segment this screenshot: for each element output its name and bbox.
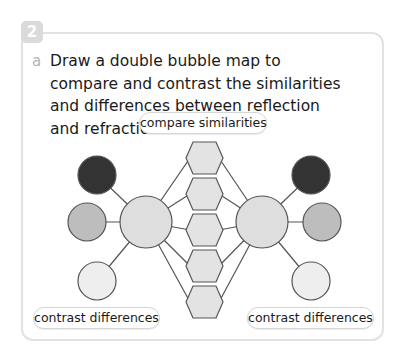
similarity-hexagon (186, 286, 223, 318)
left-center-bubble (120, 196, 172, 248)
right-difference-bubble-mid (303, 203, 341, 241)
similarity-hexagons (186, 142, 223, 318)
similarity-hexagon (186, 178, 223, 210)
compare-similarities-label: compare similarities (139, 112, 267, 134)
similarity-hexagon (186, 142, 223, 174)
contrast-differences-label-right: contrast differences (247, 307, 374, 329)
similarity-hexagon (186, 250, 223, 282)
contrast-differences-label-left: contrast differences (33, 307, 160, 329)
right-difference-bubble-dark (292, 156, 330, 194)
left-difference-bubble-mid (68, 203, 106, 241)
right-center-bubble (236, 196, 288, 248)
double-bubble-map (0, 0, 401, 350)
left-difference-bubble-dark (78, 156, 116, 194)
right-difference-bubble-light (292, 262, 330, 300)
left-difference-bubble-light (78, 262, 116, 300)
similarity-hexagon (186, 214, 223, 246)
